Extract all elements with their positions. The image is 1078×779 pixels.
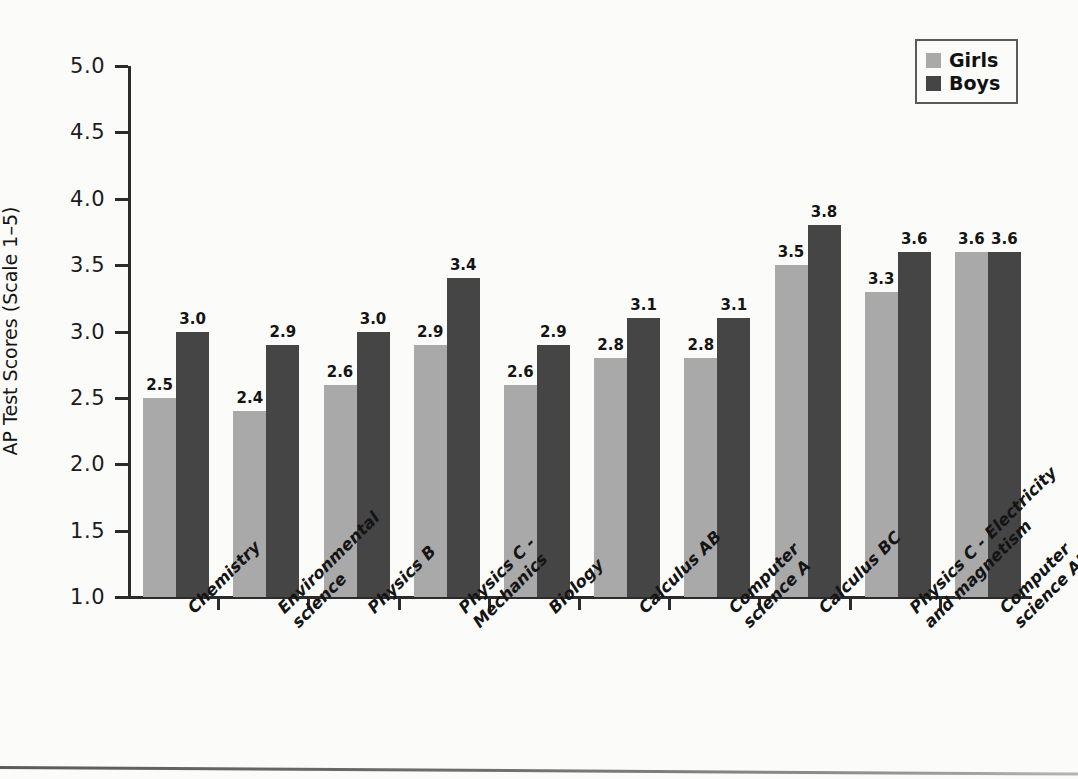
legend-label: Girls (949, 49, 998, 71)
x-axis-category-label: Environmental science (274, 604, 302, 632)
bar-girls: 2.5 (143, 398, 176, 597)
y-axis-tick: 4.0 (115, 198, 128, 201)
bar-value-label: 2.9 (417, 323, 444, 341)
bar-boys: 3.8 (808, 225, 841, 597)
legend-swatch-icon (926, 53, 941, 68)
bar-value-label: 3.6 (901, 230, 928, 248)
bar-boys: 3.4 (447, 278, 480, 597)
legend-swatch-icon (926, 76, 941, 91)
y-axis-tick-label: 4.0 (70, 187, 105, 211)
y-axis-tick: 3.5 (115, 264, 128, 267)
x-axis-tick (849, 597, 852, 610)
bar-value-label: 3.8 (811, 203, 838, 221)
bar-value-label: 2.9 (270, 323, 297, 341)
x-axis-category-label: Chemistry (184, 604, 198, 618)
legend-label: Boys (949, 72, 1000, 94)
x-axis-tick (398, 597, 401, 610)
bar-value-label: 3.6 (958, 230, 985, 248)
bar-boys: 3.6 (898, 252, 931, 597)
legend-item: Boys (926, 72, 1000, 94)
bar-boys: 2.9 (266, 345, 299, 597)
bar-value-label: 3.1 (630, 296, 657, 314)
bar-value-label: 3.0 (360, 310, 387, 328)
y-axis-tick-label: 1.5 (70, 519, 105, 543)
y-axis-tick-label: 2.5 (70, 386, 105, 410)
bar-value-label: 2.6 (507, 363, 534, 381)
bar-value-label: 3.3 (868, 270, 895, 288)
x-axis-category-label: Computer science A (725, 604, 753, 632)
y-axis-tick: 4.5 (115, 131, 128, 134)
x-axis-category-label: Physics B (364, 604, 378, 618)
y-axis-tick-label: 2.0 (70, 452, 105, 476)
bar-value-label: 2.9 (540, 323, 567, 341)
legend-item: Girls (926, 49, 1000, 71)
chart-legend: GirlsBoys (915, 39, 1018, 104)
x-axis-category-label: Biology (545, 604, 559, 618)
bar-value-label: 2.8 (597, 336, 624, 354)
x-axis-tick (578, 597, 581, 610)
bar-value-label: 3.5 (778, 243, 805, 261)
y-axis-tick: 1.0 (115, 596, 128, 599)
y-axis-tick: 2.0 (115, 463, 128, 466)
y-axis-tick: 3.0 (115, 331, 128, 334)
x-axis-category-label: Physics C - Electricity and magnetism (906, 604, 934, 632)
x-axis-category-label: Computer science AB (996, 604, 1024, 632)
y-axis-tick-label: 3.5 (70, 253, 105, 277)
chart-page: AP Test Scores (Scale 1–5) 5.04.54.03.53… (0, 0, 1078, 779)
y-axis-tick-label: 1.0 (70, 585, 105, 609)
y-axis-title: AP Test Scores (Scale 1–5) (0, 207, 21, 456)
bar-boys: 3.0 (357, 332, 390, 598)
bar-boys: 3.0 (176, 332, 209, 598)
x-axis-category-label: Calculus AB (635, 604, 649, 618)
y-axis-tick-label: 4.5 (70, 120, 105, 144)
bar-value-label: 2.8 (688, 336, 715, 354)
y-axis-tick: 2.5 (115, 397, 128, 400)
page-edge-line (0, 766, 1078, 776)
x-axis-category-label: Physics C - Mechanics (455, 604, 483, 632)
bar-value-label: 3.0 (179, 310, 206, 328)
plot-area: 5.04.54.03.53.02.52.01.51.02.53.02.42.92… (128, 66, 1030, 597)
x-axis-category-label: Calculus BC (815, 604, 829, 618)
bar-value-label: 3.1 (721, 296, 748, 314)
y-axis-tick-label: 3.0 (70, 320, 105, 344)
bar-value-label: 3.4 (450, 256, 477, 274)
x-axis-tick (668, 597, 671, 610)
x-axis-tick (217, 597, 220, 610)
bar-value-label: 2.4 (237, 389, 264, 407)
bar-value-label: 3.6 (991, 230, 1018, 248)
bar-value-label: 2.5 (146, 376, 173, 394)
y-axis-tick: 1.5 (115, 530, 128, 533)
y-axis-tick: 5.0 (115, 65, 128, 68)
bar-boys: 3.1 (627, 318, 660, 597)
bar-boys: 3.1 (717, 318, 750, 597)
y-axis-tick-label: 5.0 (70, 54, 105, 78)
bar-value-label: 2.6 (327, 363, 354, 381)
